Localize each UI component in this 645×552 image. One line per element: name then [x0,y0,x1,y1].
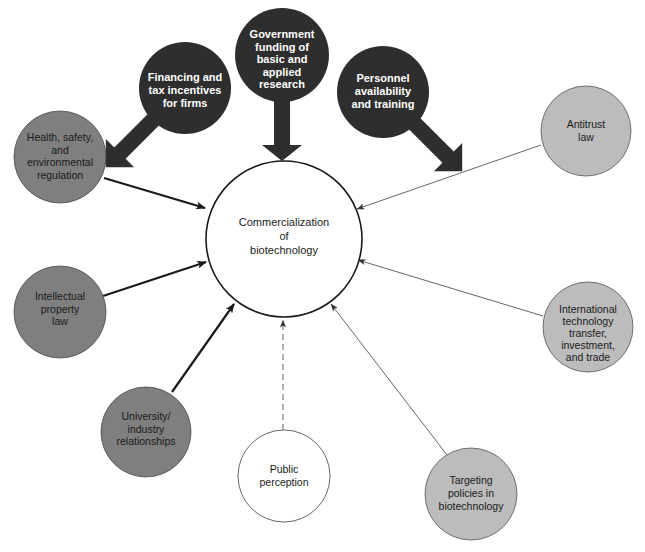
node-international-trade: Internationaltechnologytransfer,investme… [543,282,633,372]
node-personnel: Personnelavailabilityand training [337,46,429,138]
center-label: Commercialization [239,216,329,228]
center-node-commercialization: Commercializationofbiotechnology [206,161,362,317]
international-arrow [358,260,543,316]
university-arrow [172,304,234,392]
node-intellectual-property: Intellectualpropertylaw [14,266,106,358]
targeting-arrow [331,304,447,455]
influence-diagram: Commercializationofbiotechnology Financi… [0,0,645,552]
node-health-safety: Health, safety,andenvironmentalregulatio… [14,111,106,203]
node-government: Governmentfunding ofbasic andappliedrese… [235,8,329,102]
node-targeting-policies: Targetingpolicies inbiotechnology [425,448,517,540]
svg-text:Personnelavailabilityand train: Personnelavailabilityand training [352,72,415,110]
government-arrow [262,98,302,161]
node-public-perception: Publicperception [238,430,330,522]
health-arrow [104,178,205,208]
ip-arrow [103,262,206,296]
node-financing: Financing andtax incentivesfor firms [139,42,231,134]
node-antitrust: Antitrustlaw [541,86,631,176]
node-university-industry: University/industryrelationships [101,387,191,477]
